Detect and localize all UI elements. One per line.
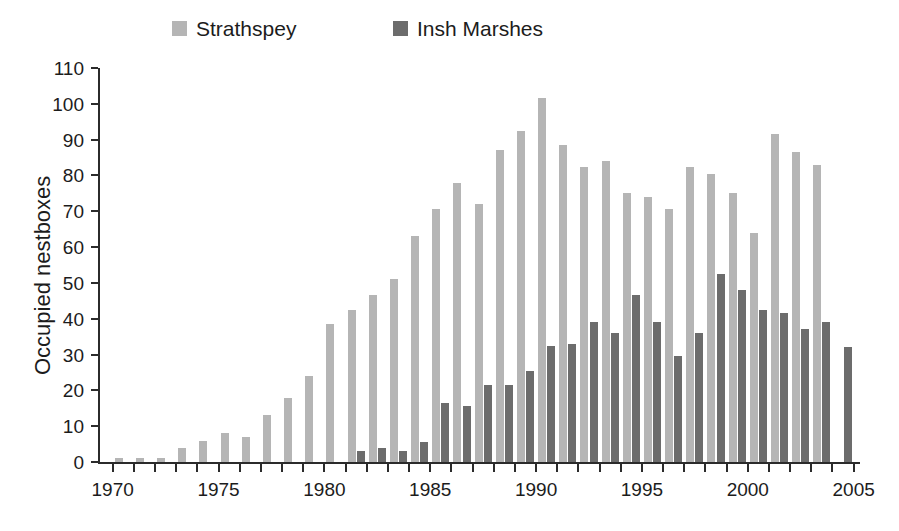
bar-strathspey-1974: [199, 441, 207, 462]
x-tick-label: 2005: [809, 480, 899, 499]
bar-insh-marshes-1991: [568, 344, 576, 462]
chart-plot-area: Occupied nestboxes 010203040506070809010…: [0, 0, 899, 531]
x-tick-mark: [472, 464, 474, 472]
bar-strathspey-1999: [729, 193, 737, 462]
bar-strathspey-1986: [453, 183, 461, 462]
bar-strathspey-1975: [221, 433, 229, 462]
bar-strathspey-1993: [602, 161, 610, 462]
x-tick-mark: [323, 464, 325, 472]
bar-insh-marshes-2001: [780, 313, 788, 462]
x-tick-mark: [810, 464, 812, 472]
x-tick-label: 1985: [385, 480, 475, 499]
x-tick-mark: [747, 464, 749, 472]
bar-insh-marshes-1998: [717, 274, 725, 462]
bar-insh-marshes-2003: [822, 322, 830, 462]
x-tick-mark: [831, 464, 833, 472]
bar-strathspey-1970: [115, 458, 123, 462]
x-axis-line: [98, 462, 860, 464]
x-tick-mark: [726, 464, 728, 472]
bar-insh-marshes-2004: [844, 347, 852, 462]
bar-strathspey-1987: [475, 204, 483, 462]
bar-series-layer: [0, 68, 899, 462]
bar-strathspey-1996: [665, 209, 673, 462]
bar-strathspey-1984: [411, 236, 419, 462]
chart-page: StrathspeyInsh Marshes Occupied nestboxe…: [0, 0, 899, 531]
x-tick-mark: [302, 464, 304, 472]
bar-strathspey-1998: [707, 174, 715, 462]
x-tick-mark: [535, 464, 537, 472]
x-tick-label: 2000: [703, 480, 793, 499]
bar-strathspey-1992: [580, 167, 588, 463]
x-tick-mark: [599, 464, 601, 472]
x-tick-label: 1990: [491, 480, 581, 499]
bar-strathspey-2000: [750, 233, 758, 462]
bar-insh-marshes-1986: [463, 406, 471, 462]
bar-strathspey-1978: [284, 398, 292, 462]
bar-strathspey-1989: [517, 131, 525, 462]
x-tick-mark: [133, 464, 135, 472]
x-tick-mark: [196, 464, 198, 472]
x-tick-mark: [853, 464, 855, 472]
bar-insh-marshes-1995: [653, 322, 661, 462]
x-tick-label: 1995: [597, 480, 687, 499]
bar-insh-marshes-1990: [547, 346, 555, 462]
bar-strathspey-1991: [559, 145, 567, 462]
bar-strathspey-1985: [432, 209, 440, 462]
bar-strathspey-1994: [623, 193, 631, 462]
x-tick-mark: [620, 464, 622, 472]
bar-insh-marshes-1989: [526, 371, 534, 462]
x-tick-mark: [450, 464, 452, 472]
x-tick-mark: [260, 464, 262, 472]
bar-insh-marshes-1996: [674, 356, 682, 462]
x-tick-mark: [387, 464, 389, 472]
x-tick-mark: [239, 464, 241, 472]
bar-strathspey-1980: [326, 324, 334, 462]
x-tick-mark: [429, 464, 431, 472]
x-tick-mark: [218, 464, 220, 472]
x-tick-mark: [514, 464, 516, 472]
x-tick-label: 1980: [279, 480, 369, 499]
bar-insh-marshes-1984: [420, 442, 428, 462]
bar-strathspey-2003: [813, 165, 821, 462]
x-tick-mark: [577, 464, 579, 472]
bar-strathspey-1976: [242, 437, 250, 462]
bar-strathspey-1990: [538, 98, 546, 462]
bar-insh-marshes-1993: [611, 333, 619, 462]
bar-strathspey-1997: [686, 167, 694, 463]
x-tick-mark: [662, 464, 664, 472]
x-tick-mark: [408, 464, 410, 472]
bar-strathspey-1979: [305, 376, 313, 462]
x-tick-mark: [366, 464, 368, 472]
bar-insh-marshes-1985: [441, 403, 449, 462]
bar-strathspey-1972: [157, 458, 165, 462]
bar-strathspey-1995: [644, 197, 652, 462]
bar-strathspey-1971: [136, 458, 144, 462]
bar-strathspey-1982: [369, 295, 377, 462]
bar-insh-marshes-1994: [632, 295, 640, 462]
bar-insh-marshes-2000: [759, 310, 767, 462]
x-tick-mark: [493, 464, 495, 472]
bar-strathspey-2002: [792, 152, 800, 462]
x-tick-mark: [112, 464, 114, 472]
x-tick-mark: [556, 464, 558, 472]
x-tick-mark: [154, 464, 156, 472]
bar-insh-marshes-1999: [738, 290, 746, 462]
x-tick-mark: [641, 464, 643, 472]
x-tick-mark: [683, 464, 685, 472]
bar-strathspey-1988: [496, 150, 504, 462]
x-tick-mark: [789, 464, 791, 472]
bar-insh-marshes-1988: [505, 385, 513, 462]
bar-strathspey-1981: [348, 310, 356, 462]
bar-insh-marshes-1997: [695, 333, 703, 462]
x-tick-label: 1975: [174, 480, 264, 499]
x-tick-label: 1970: [68, 480, 158, 499]
bar-insh-marshes-1983: [399, 451, 407, 462]
bar-insh-marshes-1981: [357, 451, 365, 462]
bar-strathspey-1983: [390, 279, 398, 462]
x-tick-mark: [281, 464, 283, 472]
bar-insh-marshes-1982: [378, 448, 386, 462]
x-tick-mark: [345, 464, 347, 472]
x-tick-mark: [704, 464, 706, 472]
bar-insh-marshes-1987: [484, 385, 492, 462]
bar-strathspey-1973: [178, 448, 186, 462]
